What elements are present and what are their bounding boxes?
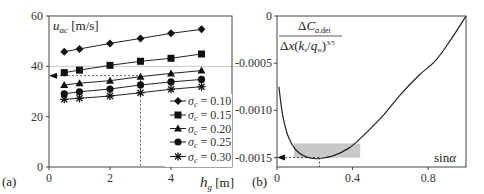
y-tick-label: -0.0005 [235,56,272,70]
y-tick-label: -0.0010 [235,103,272,117]
svg-text:Δx(ks/qw)3/5: Δx(ks/qw)3/5 [280,38,336,54]
asterisk-marker-icon [167,85,175,93]
y-tick-label: 0 [266,9,272,23]
x-tick-label: 2 [107,171,113,185]
square-marker-icon [61,69,68,76]
panel-label-a: (a) [2,174,16,189]
asterisk-marker-icon [76,94,84,102]
diamond-marker-icon [167,29,175,37]
figure: 0204060024σc = 0.10σc = 0.15σc = 0.20σc … [0,0,484,194]
panel-label-b: (b) [252,174,267,189]
x-tick-label: 0 [46,171,52,185]
diamond-marker-icon [60,48,68,56]
series-line [64,71,201,85]
legend-square-icon [175,112,182,119]
x-tick-label: 0.4 [345,171,360,185]
arrow-left-icon [49,73,57,79]
x-axis-label: hg [m] [200,174,234,192]
arrow-left-icon [277,155,285,161]
asterisk-marker-icon [198,83,206,91]
circle-marker-icon [167,78,174,85]
circle-marker-icon [76,88,83,95]
diamond-marker-icon [198,25,206,33]
legend: σc = 0.10σc = 0.15σc = 0.20σc = 0.25σc =… [165,94,232,167]
circle-marker-icon [137,81,144,88]
circle-marker-icon [106,85,113,92]
legend-asterisk-icon [174,153,182,161]
square-marker-icon [168,55,175,62]
asterisk-marker-icon [60,95,68,103]
square-marker-icon [76,67,83,74]
y-tick-label: 20 [31,110,43,124]
asterisk-marker-icon [137,89,145,97]
chart-b: 0-0.0005-0.0010-0.001500.40.8ΔCa,deiΔx(k… [235,9,466,189]
x-tick-label: 4 [168,171,174,185]
y-axis-label: ΔCa,deiΔx(ks/qw)3/5 [279,18,342,54]
y-tick-label: 0 [37,160,43,174]
series-line [64,79,201,93]
square-marker-icon [107,62,114,69]
diamond-marker-icon [76,45,84,53]
y-tick-label: 60 [31,9,43,23]
square-marker-icon [198,51,205,58]
y-axis-label: uac [m/s] [53,18,99,35]
y-tick-label: -0.0015 [235,151,272,165]
svg-text:ΔCa,dei: ΔCa,dei [298,18,332,35]
circle-marker-icon [198,76,205,83]
series-line [64,54,201,73]
square-marker-icon [137,58,144,65]
x-tick-label: 0 [274,171,280,185]
y-tick-label: 40 [31,59,43,73]
triangle-marker-icon [198,67,206,74]
asterisk-marker-icon [106,92,114,100]
x-axis-label: sinα [434,150,457,165]
diamond-marker-icon [106,39,114,47]
legend-circle-icon [174,138,181,145]
x-tick-label: 0.8 [421,171,436,185]
diamond-marker-icon [137,34,145,42]
chart-a: 0204060024σc = 0.10σc = 0.15σc = 0.20σc … [2,9,240,192]
